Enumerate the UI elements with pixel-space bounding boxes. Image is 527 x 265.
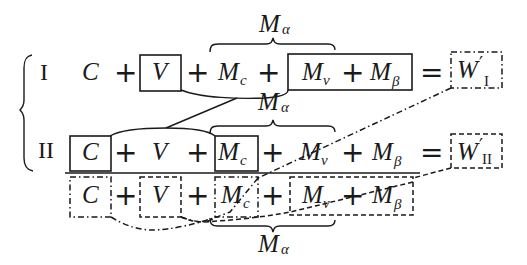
row1-equals: = [420,56,443,89]
row1-brace-sub-alpha: α [282,21,291,37]
row1-M-beta: M [369,58,392,85]
row2-M-beta: M [371,138,394,165]
row3-brace-M: M [257,230,280,257]
row1-brace-alpha [210,38,335,52]
row1-W-prime: ′ [479,53,483,74]
row3-sub-beta: β [393,196,402,212]
row1-C: C [82,58,99,85]
row-label-II: II [38,137,54,163]
row2-plus-3: + [261,136,284,169]
row3-M-beta: M [371,181,394,208]
row2-brace-M: M [257,88,280,115]
left-brace [20,55,33,171]
row2-sub-v: v [321,152,328,168]
row1-sub-v: v [323,72,330,88]
row3-brace-sub-alpha: α [281,241,290,257]
row2-sub-c: c [240,152,247,168]
row1-brace-M: M [258,10,281,37]
row2-C: C [82,138,99,165]
connector-solid-bottom [110,128,215,136]
row2-M: M [217,138,240,165]
row2-M-v: M [299,138,322,165]
connector-solid-diag [166,98,237,128]
row3-plus-3: + [261,179,284,212]
row1-M: M [217,58,240,85]
row2-V: V [152,138,170,165]
row2-W: W [457,138,480,165]
row2-plus-4: + [341,136,364,169]
diagram-canvas: I C + V + M c + M v + M β = W ′ I M α M … [0,0,527,265]
row3-V: V [152,181,170,208]
row1-W: W [457,56,480,83]
row-label-I: I [40,59,48,85]
row3-plus-1: + [114,179,137,212]
row3-M: M [220,181,243,208]
row1-plus-3: + [257,56,280,89]
row1-plus-1: + [114,56,137,89]
row1-sub-c: c [240,72,247,88]
row1-plus-4: + [341,56,364,89]
row3-sub-c: c [243,195,250,211]
row3-plus-2: + [186,179,209,212]
row2-plus-2: + [186,136,209,169]
row3-M-v: M [301,181,324,208]
row3-plus-4: + [341,179,364,212]
row1-plus-2: + [186,56,209,89]
row1-V: V [152,58,170,85]
row1-M-v: M [301,58,324,85]
row2-brace-alpha [210,120,335,134]
row1-sub-beta: β [391,73,400,89]
row2-brace-sub-alpha: α [281,99,290,115]
row2-plus-1: + [114,136,137,169]
row2-equals: = [420,136,443,169]
row3-C: C [82,181,99,208]
row2-sub-beta: β [393,153,402,169]
row1-W-sub-I: I [484,73,489,89]
row2-W-sub-II: II [482,151,492,167]
